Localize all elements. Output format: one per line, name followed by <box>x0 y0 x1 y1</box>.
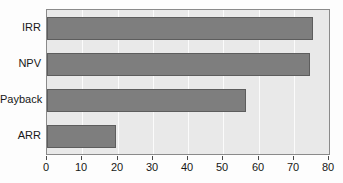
x-tick-mark-60 <box>258 156 259 160</box>
bar-npv <box>47 53 310 76</box>
x-tick-mark-30 <box>152 156 153 160</box>
x-tick-label-80: 80 <box>322 161 334 174</box>
x-tick-mark-50 <box>222 156 223 160</box>
bar-payback <box>47 89 246 112</box>
x-axis-ticks: 01020304050607080 <box>46 156 330 178</box>
x-tick-label-50: 50 <box>216 161 228 174</box>
x-tick-mark-10 <box>81 156 82 160</box>
y-axis-label-payback: Payback <box>0 93 41 105</box>
x-tick-label-20: 20 <box>111 161 123 174</box>
x-tick-label-60: 60 <box>252 161 264 174</box>
y-axis-label-irr: IRR <box>0 21 41 33</box>
plot-area <box>46 9 330 155</box>
x-tick-label-10: 10 <box>75 161 87 174</box>
x-tick-mark-80 <box>328 156 329 160</box>
x-tick-label-30: 30 <box>146 161 158 174</box>
x-tick-mark-0 <box>46 156 47 160</box>
x-tick-mark-70 <box>293 156 294 160</box>
bar-arr <box>47 125 116 148</box>
x-tick-mark-40 <box>187 156 188 160</box>
bar-chart: IRRNPVPaybackARR 01020304050607080 <box>0 0 343 183</box>
x-tick-label-40: 40 <box>181 161 193 174</box>
x-tick-mark-20 <box>117 156 118 160</box>
x-tick-label-70: 70 <box>287 161 299 174</box>
y-axis-label-npv: NPV <box>0 57 41 69</box>
y-axis-category-labels: IRRNPVPaybackARR <box>0 9 41 155</box>
y-axis-label-arr: ARR <box>0 129 41 141</box>
bar-irr <box>47 17 313 40</box>
x-tick-label-0: 0 <box>43 161 49 174</box>
